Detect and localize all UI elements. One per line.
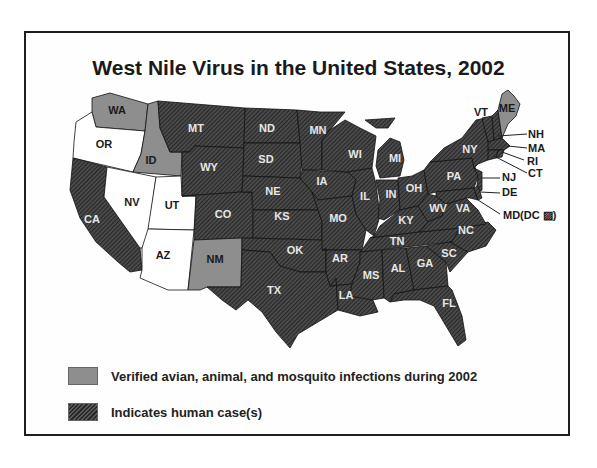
label-id: ID <box>146 154 157 166</box>
label-wi: WI <box>348 148 361 160</box>
label-mt: MT <box>188 122 204 134</box>
label-nv: NV <box>124 196 140 208</box>
label-ky: KY <box>398 214 414 226</box>
label-nj: NJ <box>502 171 516 183</box>
label-co: CO <box>215 208 232 220</box>
label-va: VA <box>456 202 471 214</box>
label-al: AL <box>391 262 406 274</box>
label-ca: CA <box>84 213 100 225</box>
legend-item-human: Indicates human case(s) <box>68 403 262 421</box>
legend-item-verified: Verified avian, animal, and mosquito inf… <box>68 367 477 385</box>
state-me <box>498 90 520 138</box>
label-ct: CT <box>528 167 543 179</box>
label-tn: TN <box>390 235 405 247</box>
label-ok: OK <box>287 244 304 256</box>
label-md-dc: MD(DC ▨) <box>503 209 557 221</box>
label-ri: RI <box>527 155 538 167</box>
label-mn: MN <box>309 124 326 136</box>
label-sc: SC <box>441 247 456 259</box>
label-mo: MO <box>329 212 347 224</box>
label-nh: NH <box>528 128 544 140</box>
label-vt: VT <box>474 106 488 118</box>
leader-ma <box>508 146 527 148</box>
label-fl: FL <box>442 297 456 309</box>
label-wy: WY <box>200 161 218 173</box>
leader-de <box>480 192 500 193</box>
label-ny: NY <box>462 143 478 155</box>
label-nc: NC <box>458 224 474 236</box>
label-az: AZ <box>156 249 171 261</box>
us-map: WA OR ID CA NV UT AZ MT WY CO NM ND SD N… <box>0 0 597 468</box>
label-ks: KS <box>274 210 289 222</box>
label-il: IL <box>360 190 370 202</box>
label-ga: GA <box>417 257 434 269</box>
label-wv: WV <box>429 202 447 214</box>
label-ar: AR <box>332 252 348 264</box>
label-ia: IA <box>317 175 328 187</box>
legend-swatch-gray <box>68 367 98 385</box>
leader-ri <box>502 152 524 160</box>
label-tx: TX <box>267 284 282 296</box>
label-in: IN <box>386 188 397 200</box>
label-ma: MA <box>528 142 545 154</box>
label-ms: MS <box>363 269 380 281</box>
label-me: ME <box>499 102 516 114</box>
label-wa: WA <box>108 104 126 116</box>
label-oh: OH <box>406 182 423 194</box>
state-fl <box>390 286 466 346</box>
label-de: DE <box>502 186 517 198</box>
label-mi: MI <box>389 152 401 164</box>
label-nm: NM <box>206 253 223 265</box>
label-pa: PA <box>447 170 462 182</box>
label-or: OR <box>96 138 113 150</box>
legend-label-verified: Verified avian, animal, and mosquito inf… <box>111 369 477 384</box>
legend-label-human: Indicates human case(s) <box>111 405 262 420</box>
label-la: LA <box>339 289 354 301</box>
label-ut: UT <box>165 199 180 211</box>
legend-swatch-hatched <box>68 403 98 421</box>
label-ne: NE <box>265 185 280 197</box>
label-nd: ND <box>259 122 275 134</box>
label-sd: SD <box>258 153 273 165</box>
leader-md <box>478 200 500 214</box>
